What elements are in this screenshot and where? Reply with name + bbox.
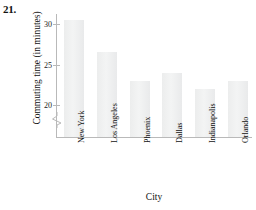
y-axis-tick-label: 30 — [44, 20, 52, 29]
y-axis-tick-label: 25 — [44, 60, 52, 69]
y-axis-tick-label: 20 — [44, 101, 52, 110]
y-axis-tick-mark — [53, 65, 60, 66]
y-axis-title: Commuting time (in minutes) — [32, 0, 42, 138]
x-axis-tick-label: Los Angeles — [110, 103, 119, 143]
x-axis-tick-label: Orlando — [241, 117, 250, 143]
x-axis-title: City — [56, 192, 252, 202]
y-axis-tick-mark — [53, 24, 60, 25]
x-axis-tick-label: Phoenix — [143, 117, 152, 143]
x-axis-tick-label: Indianapolis — [208, 103, 217, 143]
plot-area: 202530 New YorkLos AngelesPhoenixDallasI… — [56, 12, 252, 138]
y-axis-tick-mark — [53, 105, 60, 106]
x-axis-tick-label: New York — [77, 111, 86, 143]
problem-number: 21. — [3, 3, 16, 15]
axis-break-icon — [51, 112, 63, 128]
bar-chart-figure: 21. Commuting time (in minutes) 202530 N… — [0, 0, 256, 210]
x-axis-tick-label: Dallas — [175, 123, 184, 143]
